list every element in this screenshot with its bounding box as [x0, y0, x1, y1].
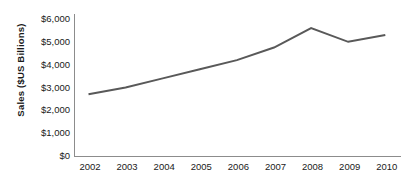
- x-axis-tick-label: 2009: [330, 161, 370, 173]
- x-axis-tick-label: 2008: [293, 161, 333, 173]
- y-axis-tick-label: $1,000: [26, 128, 70, 138]
- y-axis-tick-label: $4,000: [26, 60, 70, 70]
- x-axis-tick-label: 2007: [256, 161, 296, 173]
- y-axis-tick-label: $5,000: [26, 37, 70, 47]
- y-axis-tick-labels: $0$1,000$2,000$3,000$4,000$5,000$6,000: [26, 0, 70, 181]
- x-axis-tick-label: 2004: [144, 161, 184, 173]
- x-axis-tick-label: 2003: [107, 161, 147, 173]
- line-chart: Sales ($US Billions) $0$1,000$2,000$3,00…: [0, 0, 417, 181]
- x-axis-tick-label: 2006: [218, 161, 258, 173]
- y-axis-tick-label: $0: [26, 151, 70, 161]
- y-axis-tick-label: $2,000: [26, 105, 70, 115]
- x-axis-tick-label: 2010: [367, 161, 407, 173]
- x-axis-tick-labels: 200220032004200520062007200820092010: [0, 161, 417, 175]
- y-axis-tick-label: $6,000: [26, 14, 70, 24]
- x-axis-tick-label: 2002: [70, 161, 110, 173]
- x-axis-tick-label: 2005: [181, 161, 221, 173]
- y-axis-tick-label: $3,000: [26, 83, 70, 93]
- x-axis-line: [74, 156, 401, 157]
- plot-area: [74, 14, 400, 156]
